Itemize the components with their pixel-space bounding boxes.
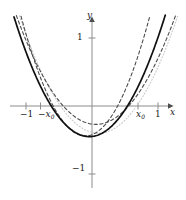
x-tick-label-x0: x0	[136, 110, 145, 119]
x-tick-label-x0-sub: 0	[141, 113, 145, 120]
x-axis-label: x	[170, 108, 175, 117]
parabola-plot	[0, 0, 186, 200]
x-tick-label-minus-one: −1	[20, 110, 33, 119]
x-tick-label-minus-x0-base: −x	[38, 109, 51, 119]
axes-group	[10, 17, 174, 189]
y-tick-label-one: 1	[77, 33, 83, 42]
x-tick-label-minus-x0-sub: 0	[51, 113, 55, 120]
x-tick-label-minus-x0: −x0	[38, 110, 54, 119]
y-tick-label-minus-one: −1	[72, 164, 85, 173]
x-tick-label-one: 1	[155, 110, 161, 119]
figure-container: x y 1 −1 x0 −x0 1 −1	[0, 0, 186, 200]
y-axis-label: y	[87, 11, 92, 20]
